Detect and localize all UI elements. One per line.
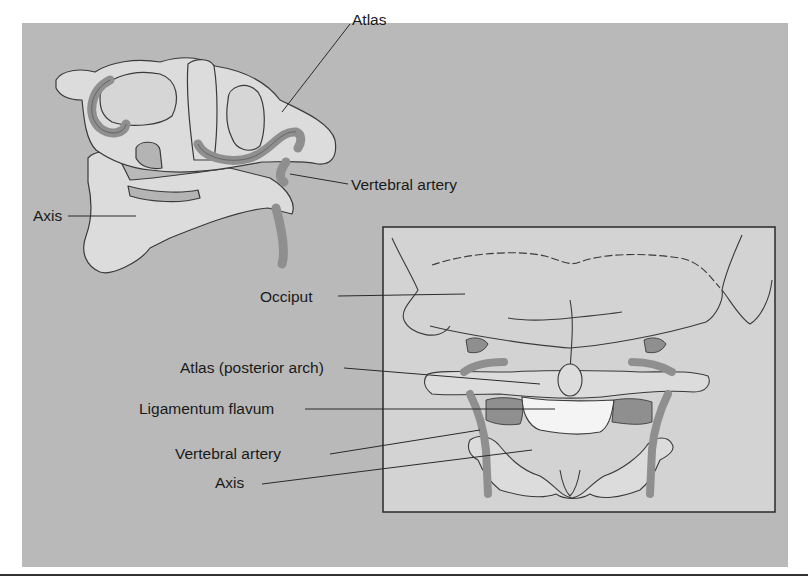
posterior-tubercle [558,364,582,396]
label-axis-top: Axis [33,208,62,224]
label-ligamentum-flavum: Ligamentum flavum [139,401,274,417]
label-axis-inset: Axis [215,475,244,491]
label-atlas-posterior-arch: Atlas (posterior arch) [180,360,324,376]
anatomy-illustration [0,0,808,587]
leader-vertebral-artery-top [290,174,348,184]
atlas-facet-right [227,86,264,151]
ligamentum-flavum [522,397,614,434]
bottom-rule [0,574,808,576]
label-vertebral-artery-top: Vertebral artery [351,177,457,193]
label-vertebral-artery-inset: Vertebral artery [175,446,281,462]
leader-atlas [282,24,350,112]
label-occiput: Occiput [260,289,313,305]
label-atlas: Atlas [352,12,386,28]
